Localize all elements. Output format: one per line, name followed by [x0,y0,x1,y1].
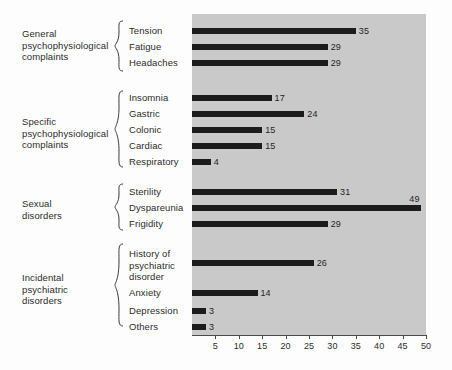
bar [192,324,206,330]
item-label-dyspareunia: Dyspareunia [129,202,183,214]
bar-value-label: 3 [209,307,214,316]
brace-specific [114,90,124,168]
x-axis-tick [286,335,287,339]
bar [192,28,356,34]
item-label-others: Others [129,321,158,333]
plot-area: 352929172415154314929261433 [192,14,426,335]
bar [192,290,258,296]
item-label-history-of-psychiatric-disorder: History of psychiatric disorder [129,248,189,283]
x-axis-tick [239,335,240,339]
bar-value-label: 29 [331,59,341,68]
x-axis-tick [262,335,263,339]
brace-incidental [114,243,124,327]
item-label-tension: Tension [129,25,162,37]
x-axis-tick [426,335,427,339]
bar [192,44,328,50]
bar [192,143,262,149]
bar-value-label: 4 [214,158,219,167]
x-axis-tick-label: 5 [213,341,218,351]
item-label-headaches: Headaches [129,57,178,69]
x-axis-tick-label: 50 [421,341,431,351]
item-label-cardiac: Cardiac [129,140,162,152]
item-label-colonic: Colonic [129,124,161,136]
x-axis-tick [356,335,357,339]
x-axis-tick [379,335,380,339]
bar-chart-figure: General psychophysiological complaints S… [0,0,452,370]
x-axis-tick-label: 35 [351,341,361,351]
item-label-anxiety: Anxiety [129,287,161,299]
bar-value-label: 15 [265,126,275,135]
item-label-insomnia: Insomnia [129,92,168,104]
bar-value-label: 3 [209,323,214,332]
item-label-frigidity: Frigidity [129,218,163,230]
x-axis-tick-label: 20 [280,341,290,351]
bar [192,159,211,165]
item-label-fatigue: Fatigue [129,41,161,53]
bar [192,60,328,66]
item-label-gastric: Gastric [129,108,160,120]
bar-value-label: 15 [265,142,275,151]
bar [192,95,272,101]
x-axis-tick-label: 30 [327,341,337,351]
bar-value-label: 17 [275,94,285,103]
bar-value-label: 29 [331,43,341,52]
bar-value-label: 29 [331,220,341,229]
bar [192,111,304,117]
x-axis-tick [332,335,333,339]
group-label-sexual: Sexual disorders [22,198,114,221]
group-label-incidental: Incidental psychiatric disorders [22,272,114,307]
x-axis-tick-label: 15 [257,341,267,351]
x-axis-tick-label: 25 [304,341,314,351]
bar-value-label: 14 [261,289,271,298]
x-axis-tick-label: 40 [374,341,384,351]
brace-sexual [114,183,124,231]
item-label-sterility: Sterility [129,186,161,198]
bar [192,127,262,133]
bar [192,221,328,227]
bar-value-label: 26 [317,259,327,268]
x-axis-tick-label: 10 [234,341,244,351]
bar-value-label: 49 [409,195,419,204]
item-label-depression: Depression [129,305,178,317]
bar [192,308,206,314]
group-label-specific: Specific psychophysiological complaints [22,116,114,151]
item-label-respiratory: Respiratory [129,156,179,168]
bar [192,189,337,195]
x-axis-tick [403,335,404,339]
group-label-general: General psychophysiological complaints [22,28,114,63]
x-axis-tick [215,335,216,339]
x-axis-tick-label: 45 [397,341,407,351]
bar-value-label: 31 [340,188,350,197]
bar [192,205,421,211]
bar-value-label: 24 [307,110,317,119]
bar-value-label: 35 [359,27,369,36]
brace-general [114,20,124,72]
x-axis-tick [309,335,310,339]
bar [192,260,314,266]
